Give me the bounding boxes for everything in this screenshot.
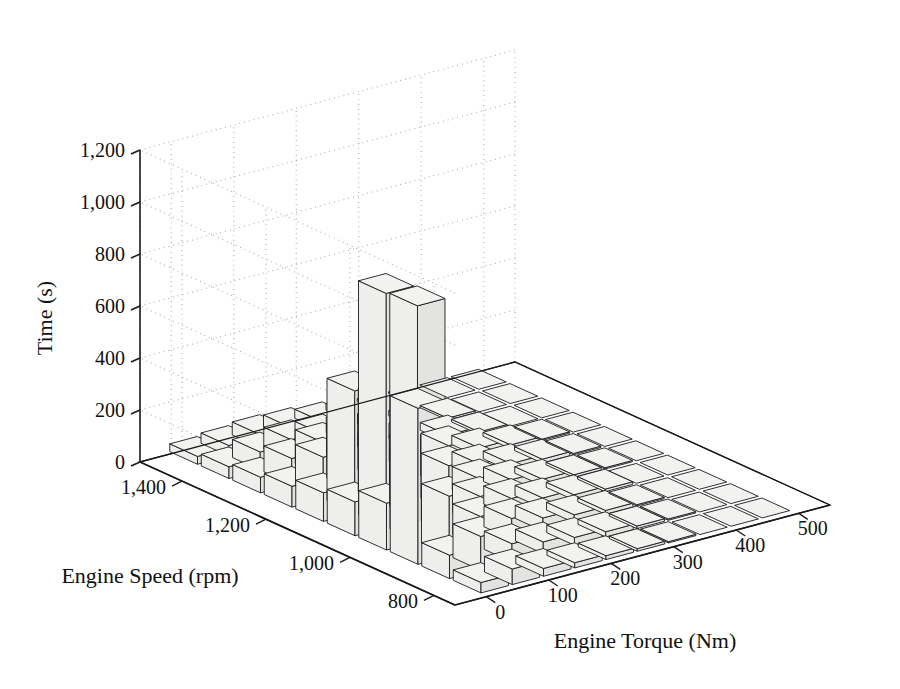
z-tick-label: 800 — [95, 243, 125, 265]
y-tick-label: 1,000 — [289, 552, 334, 574]
x-tick-label: 100 — [548, 584, 578, 606]
x-tick-label: 200 — [610, 567, 640, 589]
x-axis-title: Engine Torque (Nm) — [554, 628, 737, 653]
z-tick-label: 600 — [95, 295, 125, 317]
y-tick-label: 1,200 — [205, 514, 250, 536]
z-tick-label: 400 — [95, 347, 125, 369]
y-axis-title: Engine Speed (rpm) — [61, 563, 238, 588]
z-tick-label: 0 — [115, 451, 125, 473]
x-tick-label: 400 — [735, 534, 765, 556]
x-tick-label: 500 — [798, 517, 828, 539]
z-tick-label: 1,200 — [80, 139, 125, 161]
bar-face-left — [390, 396, 418, 565]
x-tick-label: 300 — [673, 551, 703, 573]
y-tick-label: 800 — [388, 590, 418, 612]
y-tick-label: 1,400 — [121, 476, 166, 498]
bar3d-chart: 02004006008001,0001,2008001,0001,2001,40… — [0, 0, 900, 689]
z-tick-label: 1,000 — [80, 191, 125, 213]
z-tick-label: 200 — [95, 399, 125, 421]
x-tick-label: 0 — [495, 601, 505, 623]
chart-figure: 02004006008001,0001,2008001,0001,2001,40… — [0, 0, 900, 689]
z-axis-title: Time (s) — [32, 281, 57, 355]
